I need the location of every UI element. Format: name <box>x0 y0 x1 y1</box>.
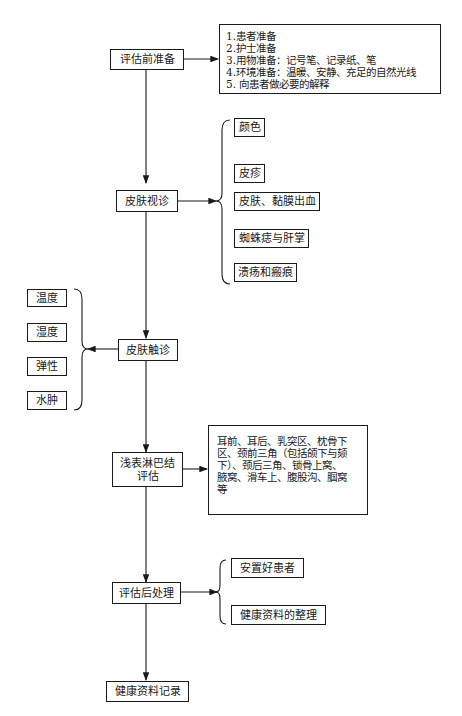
palpation-item-edema: 水肿 <box>27 391 67 410</box>
visual-item-color: 颜色 <box>234 118 265 137</box>
lymph-detail-4: 腋窝、滑车上、腹股沟、腘窝 <box>217 471 359 483</box>
lymph-detail-5: 等 <box>217 483 359 495</box>
pre-detail-2: 2.护士准备 <box>226 42 434 54</box>
pre-detail-4: 4.环境准备：温暖、安静、充足的自然光线 <box>226 66 434 78</box>
post-item-organize-data: 健康资料的整理 <box>231 605 326 625</box>
pre-detail-1: 1.患者准备 <box>226 30 434 42</box>
pre-detail-5: 5. 向患者做必要的解释 <box>226 78 434 90</box>
node-skin-inspection: 皮肤视诊 <box>116 190 178 212</box>
visual-item-ulcer-scar: 溃疡和瘢痕 <box>234 263 297 282</box>
post-item-settle-patient: 安置好患者 <box>231 558 304 578</box>
lymph-detail-2: 区、颈前三角（包括颌下与颏 <box>217 447 359 459</box>
lymph-details: 耳前、耳后、乳突区、枕骨下 区、颈前三角（包括颌下与颏 下）、颈后三角、锁骨上窝… <box>208 425 368 515</box>
palpation-item-temperature: 温度 <box>27 289 67 307</box>
node-lymph-assessment: 浅表淋巴结 评估 <box>112 452 183 487</box>
palpation-item-elasticity: 弹性 <box>27 357 67 376</box>
node-lymph-line2: 评估 <box>137 470 159 483</box>
pre-detail-3: 3.用物准备：记号笔、记录纸、笔 <box>226 54 434 66</box>
lymph-detail-1: 耳前、耳后、乳突区、枕骨下 <box>217 435 359 447</box>
pre-assessment-details: 1.患者准备 2.护士准备 3.用物准备：记号笔、记录纸、笔 4.环境准备：温暖… <box>219 24 441 94</box>
node-post-assessment: 评估后处理 <box>112 582 181 604</box>
visual-item-spider-nevus: 蜘蛛痣与肝掌 <box>234 229 309 248</box>
visual-item-bleeding: 皮肤、黏膜出血 <box>234 192 320 211</box>
lymph-detail-3: 下）、颈后三角、锁骨上窝、 <box>217 459 359 471</box>
node-pre-assessment: 评估前准备 <box>110 49 184 70</box>
palpation-item-humidity: 湿度 <box>27 323 67 342</box>
node-health-record: 健康资料记录 <box>106 681 189 702</box>
node-lymph-line1: 浅表淋巴结 <box>120 457 175 470</box>
node-skin-palpation: 皮肤触诊 <box>118 339 178 361</box>
visual-item-rash: 皮疹 <box>234 164 265 183</box>
